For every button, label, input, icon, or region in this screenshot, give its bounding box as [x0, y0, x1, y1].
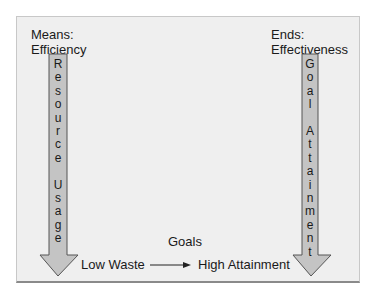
- arrow-letter: U: [54, 179, 63, 192]
- arrow-letter: a: [307, 85, 314, 98]
- goals-label: Goals: [168, 234, 202, 249]
- arrow-letter: a: [307, 165, 314, 178]
- arrow-letter: s: [55, 192, 61, 205]
- arrow-letter: [308, 112, 311, 125]
- ends-label: Ends:: [271, 27, 348, 42]
- arrow-letter: e: [307, 219, 314, 232]
- low-waste-label: Low Waste: [81, 257, 145, 272]
- arrow-letter: o: [307, 71, 314, 84]
- arrow-letter: t: [308, 138, 311, 151]
- arrow-letter: c: [55, 138, 61, 151]
- arrow-letter: u: [55, 112, 62, 125]
- arrow-letter: a: [55, 205, 62, 218]
- arrow-letter: n: [307, 192, 314, 205]
- means-label: Means:: [31, 27, 86, 42]
- arrow-letter: e: [55, 152, 62, 165]
- arrow-letter: A: [306, 125, 314, 138]
- arrow-letter: l: [309, 98, 312, 111]
- arrow-letter: m: [305, 205, 315, 218]
- resource-usage-text: Resource Usage: [49, 58, 67, 246]
- arrow-letter: [56, 165, 59, 178]
- goals-arrow-icon: [150, 260, 192, 270]
- arrow-letter: e: [55, 71, 62, 84]
- arrow-letter: n: [307, 232, 314, 245]
- arrow-letter: g: [55, 219, 62, 232]
- arrow-letter: s: [55, 85, 61, 98]
- arrow-letter: r: [56, 125, 60, 138]
- arrow-letter: e: [55, 232, 62, 245]
- arrow-letter: o: [55, 98, 62, 111]
- arrow-letter: t: [308, 152, 311, 165]
- high-attainment-label: High Attainment: [198, 257, 290, 272]
- arrow-letter: t: [308, 246, 311, 259]
- arrow-letter: G: [305, 58, 314, 71]
- goal-attainment-text: Goal Attainment: [302, 58, 318, 259]
- arrow-letter: i: [309, 179, 312, 192]
- arrow-letter: R: [54, 58, 63, 71]
